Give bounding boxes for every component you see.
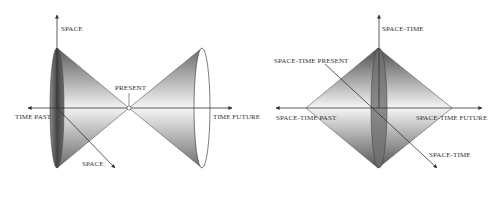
label-space-time-future: SPACE-TIME FUTURE (416, 114, 487, 122)
label-time-future: TIME FUTURE (213, 113, 260, 121)
light-cone-diagram: SPACE PRESENT TIME PAST TIME FUTURE SPAC… (15, 15, 260, 168)
label-space-time-vertical: SPACE-TIME (382, 25, 424, 33)
label-space-time-past: SPACE-TIME PAST (276, 114, 337, 122)
label-space-diagonal: SPACE (82, 160, 104, 168)
present-point (127, 106, 131, 110)
label-time-past: TIME PAST (15, 113, 52, 121)
space-time-diamond-diagram: SPACE-TIME SPACE-TIME PRESENT SPACE-TIME… (274, 15, 487, 168)
label-space-time-present: SPACE-TIME PRESENT (274, 57, 349, 65)
diagram-canvas: SPACE PRESENT TIME PAST TIME FUTURE SPAC… (0, 0, 492, 217)
label-space-time-diagonal: SPACE-TIME (429, 151, 471, 159)
label-space-vertical: SPACE (61, 25, 83, 33)
label-present: PRESENT (115, 84, 147, 92)
